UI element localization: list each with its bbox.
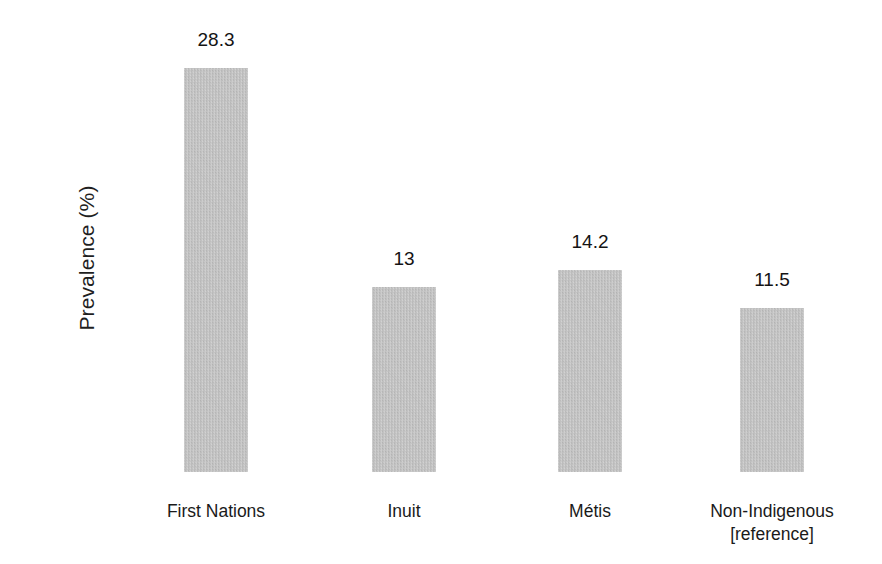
bar-value-label: 13 bbox=[344, 249, 464, 268]
category-line-1: Inuit bbox=[324, 500, 484, 523]
bar-value-label: 28.3 bbox=[156, 30, 276, 49]
category-line-1: First Nations bbox=[136, 500, 296, 523]
bar-first-nations[interactable] bbox=[184, 68, 248, 472]
bar-inuit[interactable] bbox=[372, 287, 436, 472]
plot-area: 28.3 First Nations 13 Inuit 14.2 Métis 1… bbox=[0, 0, 882, 564]
x-axis-category-label: Inuit bbox=[324, 500, 484, 523]
category-line-1: Métis bbox=[510, 500, 670, 523]
bar-metis[interactable] bbox=[558, 270, 622, 472]
bar-chart-figure: Prevalence (%) 30 25 20 15 10 5 0 28.3 F… bbox=[0, 0, 882, 564]
bar-value-label: 14.2 bbox=[530, 232, 650, 251]
bar-non-indigenous[interactable] bbox=[740, 308, 804, 472]
x-axis-category-label: First Nations bbox=[136, 500, 296, 523]
category-line-1: Non-Indigenous bbox=[682, 500, 862, 523]
category-line-2: [reference] bbox=[682, 523, 862, 546]
x-axis-category-label: Métis bbox=[510, 500, 670, 523]
x-axis-category-label: Non-Indigenous [reference] bbox=[682, 500, 862, 546]
bar-value-label: 11.5 bbox=[712, 270, 832, 289]
